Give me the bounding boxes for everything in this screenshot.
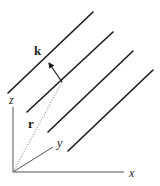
z-axis-label: z — [8, 93, 14, 107]
r-label: r — [28, 116, 34, 131]
position-vector-r — [13, 82, 62, 172]
wavefront-line-3 — [48, 51, 133, 132]
x-axis-label: x — [128, 166, 135, 180]
plane-wave-diagram: k r x y z — [0, 0, 160, 186]
wave-vector-k-arrow — [49, 63, 62, 82]
wavefront-line-1 — [8, 12, 93, 93]
k-label: k — [34, 43, 42, 58]
y-axis-label: y — [56, 136, 63, 150]
y-axis — [13, 147, 53, 172]
wavefront-line-4 — [68, 70, 153, 151]
